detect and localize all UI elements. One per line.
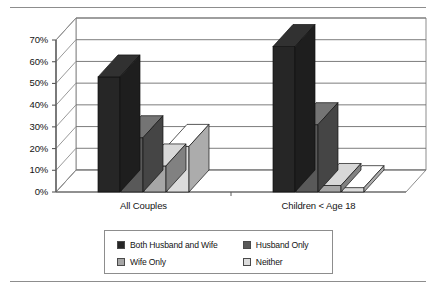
bar-front-face xyxy=(342,188,364,192)
y-tick-label-60: 60% xyxy=(14,56,48,67)
legend-swatch-icon xyxy=(117,258,125,266)
legend-item-label: Neither xyxy=(256,257,283,267)
bottom-divider-rule xyxy=(10,281,426,282)
bar-front-face xyxy=(98,77,120,192)
y-tick-label-10: 10% xyxy=(14,164,48,175)
top-divider-rule xyxy=(10,7,426,8)
legend-item[interactable]: Both Husband and Wife xyxy=(105,236,237,253)
bar-side-face xyxy=(295,25,315,192)
y-tick-label-20: 20% xyxy=(14,143,48,154)
legend-item[interactable]: Neither xyxy=(237,253,332,270)
legend-item[interactable]: Wife Only xyxy=(105,253,237,270)
legend-row: Wife OnlyNeither xyxy=(105,253,332,270)
plot-area: 0%10%20%30%40%50%60%70% All CouplesChild… xyxy=(6,14,430,220)
legend-item-label: Husband Only xyxy=(256,240,309,250)
chart-legend: Both Husband and WifeHusband OnlyWife On… xyxy=(104,230,333,274)
y-tick-label-0: 0% xyxy=(14,186,48,197)
category-label-1: Children < Age 18 xyxy=(231,200,406,211)
legend-item-label: Wife Only xyxy=(130,257,166,267)
bar-side-face xyxy=(120,55,140,192)
legend-item[interactable]: Husband Only xyxy=(237,236,332,253)
legend-swatch-icon xyxy=(117,241,125,249)
legend-swatch-icon xyxy=(243,241,251,249)
legend-item-label: Both Husband and Wife xyxy=(130,240,218,250)
bar-1-0 xyxy=(273,25,315,192)
bar-front-face xyxy=(273,47,295,192)
category-label-0: All Couples xyxy=(56,200,231,211)
legend-swatch-icon xyxy=(243,258,251,266)
y-tick-label-30: 30% xyxy=(14,121,48,132)
y-tick-label-40: 40% xyxy=(14,99,48,110)
left-wall xyxy=(56,18,76,192)
chart-canvas xyxy=(6,14,430,220)
bar-0-0 xyxy=(98,55,140,192)
chart-figure: 0%10%20%30%40%50%60%70% All CouplesChild… xyxy=(0,0,436,290)
y-tick-label-50: 50% xyxy=(14,77,48,88)
y-tick-label-70: 70% xyxy=(14,34,48,45)
legend-row: Both Husband and WifeHusband Only xyxy=(105,236,332,253)
